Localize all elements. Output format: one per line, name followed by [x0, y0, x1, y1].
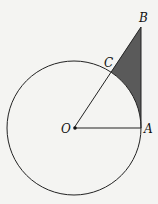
label-o: O — [61, 122, 71, 136]
shaded-region — [111, 27, 141, 128]
label-c: C — [104, 56, 113, 70]
geometry-diagram: O A B C — [0, 0, 158, 204]
center-point-o — [73, 126, 77, 130]
label-a: A — [143, 122, 153, 136]
label-b: B — [138, 11, 148, 25]
